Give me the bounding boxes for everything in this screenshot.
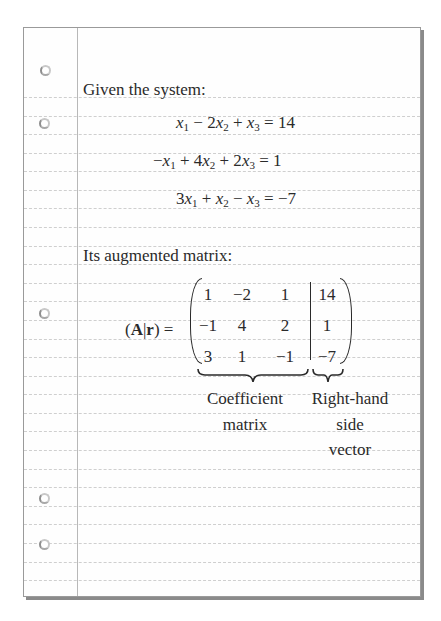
binder-hole-icon — [39, 493, 50, 504]
matrix-cell: 3 — [193, 348, 223, 365]
ruled-line — [24, 562, 420, 563]
coefficient-brace-icon — [197, 368, 309, 384]
notebook-paper: Given the system: x1 − 2x2 + x3 = 14 −x1… — [23, 27, 421, 597]
rhs-label-line-2: side — [300, 416, 400, 433]
augment-divider — [310, 282, 311, 360]
augmented-matrix: 1 −2 1 −1 4 2 3 1 −1 14 1 −7 — [190, 278, 360, 364]
equation-3: 3x1 + x2 − x3 = −7 — [176, 190, 296, 209]
binder-hole-icon — [39, 118, 50, 129]
rhs-label-line-3: vector — [300, 441, 400, 458]
augmented-matrix-label: (A|r) = — [125, 321, 173, 338]
equation-2-rhs: 1 — [273, 151, 282, 170]
binder-hole-icon — [39, 308, 50, 319]
rhs-cell: 14 — [312, 286, 342, 303]
ruled-line — [24, 487, 420, 488]
matrix-cell: −1 — [270, 348, 300, 365]
margin-line — [77, 28, 78, 596]
label-r: r — [146, 320, 154, 339]
system-heading: Given the system: — [83, 81, 206, 98]
ruled-line — [24, 543, 420, 544]
coefficient-label-line-1: Coefficient — [195, 390, 295, 407]
rhs-label-line-1: Right-hand — [300, 390, 400, 407]
equation-1: x1 − 2x2 + x3 = 14 — [176, 114, 295, 133]
matrix-cell: 4 — [227, 317, 257, 334]
matrix-cell: 1 — [193, 286, 223, 303]
ruled-line — [24, 469, 420, 470]
matrix-cell: −1 — [193, 317, 223, 334]
matrix-cell: 1 — [227, 348, 257, 365]
binder-hole-icon — [40, 65, 51, 76]
ruled-line — [24, 580, 420, 581]
rhs-cell: −7 — [312, 348, 342, 365]
ruled-line — [24, 227, 420, 228]
ruled-line — [24, 413, 420, 414]
rhs-cell: 1 — [312, 317, 342, 334]
label-equals: = — [164, 320, 174, 339]
binder-hole-icon — [39, 539, 50, 550]
rhs-brace-icon — [312, 368, 344, 384]
matrix-cell: 2 — [270, 317, 300, 334]
ruled-line — [24, 171, 420, 172]
ruled-line — [24, 506, 420, 507]
ruled-line — [24, 134, 420, 135]
ruled-line — [24, 524, 420, 525]
equation-2: −x1 + 4x2 + 2x3 = 1 — [153, 152, 282, 171]
coefficient-label-line-2: matrix — [195, 416, 295, 433]
matrix-heading: Its augmented matrix: — [83, 247, 232, 264]
equation-1-rhs: 14 — [278, 113, 295, 132]
label-close-paren: ) — [154, 320, 160, 339]
matrix-cell: −2 — [227, 286, 257, 303]
equation-3-rhs: −7 — [278, 189, 296, 208]
matrix-cell: 1 — [270, 286, 300, 303]
label-A: A — [131, 320, 143, 339]
